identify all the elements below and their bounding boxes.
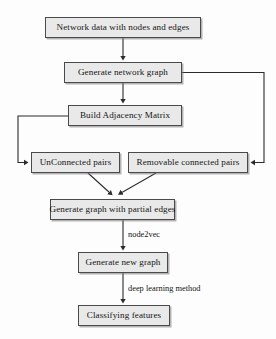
node-generate-network-graph: Generate network graph <box>64 62 182 83</box>
connector-network-to-removable <box>182 73 264 163</box>
node-generate-new-graph: Generate new graph <box>78 252 168 273</box>
connector-removable-to-partial <box>121 173 156 193</box>
node-generate-graph-with-partial-edges: Generate graph with partial edges <box>50 199 175 220</box>
edge-label-node2vec: node2vec <box>128 231 160 239</box>
node-unconnected-pairs: UnConnected pairs <box>31 152 120 173</box>
node-build-adjacency-matrix: Build Adjacency Matrix <box>68 105 182 126</box>
edge-label-deep-learning-method: deep learning method <box>128 285 201 293</box>
node-network-data: Network data with nodes and edges <box>45 17 201 38</box>
flowchart-diagram: Network data with nodes and edges Genera… <box>0 0 276 339</box>
node-removable-connected-pairs: Removable connected pairs <box>128 152 248 173</box>
connector-unconnected-to-partial <box>88 173 110 193</box>
node-classifying-features: Classifying features <box>78 305 170 326</box>
